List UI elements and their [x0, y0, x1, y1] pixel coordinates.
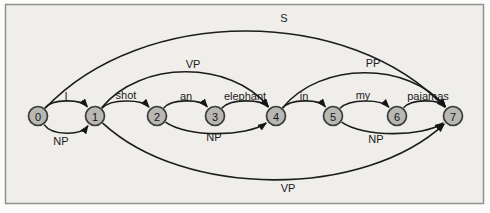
node-label-6: 6 [394, 111, 400, 123]
edge-label-pajamas: pajamas [407, 90, 449, 102]
figure-frame [6, 5, 484, 204]
edge-label-VP: VP [186, 58, 201, 70]
node-5: 5 [324, 107, 343, 126]
node-3: 3 [206, 107, 225, 126]
node-7: 7 [444, 107, 463, 126]
edge-label-NP: NP [368, 133, 383, 145]
edge-label-PP: PP [366, 57, 381, 69]
node-label-2: 2 [154, 111, 160, 123]
node-label-0: 0 [35, 111, 41, 123]
edge-label-S: S [280, 12, 287, 24]
node-label-5: 5 [330, 111, 336, 123]
edge-label-I: I [64, 90, 67, 102]
edge-label-VP: VP [281, 182, 296, 194]
node-label-3: 3 [212, 111, 218, 123]
edge-label-in: in [300, 90, 309, 102]
node-0: 0 [29, 107, 48, 126]
edge-label-shot: shot [116, 89, 137, 101]
node-2: 2 [148, 107, 167, 126]
node-label-1: 1 [92, 111, 98, 123]
node-1: 1 [86, 107, 105, 126]
edge-label-elephant: elephant [224, 90, 266, 102]
edge-label-my: my [356, 89, 371, 101]
edge-label-NP: NP [53, 135, 68, 147]
node-6: 6 [388, 107, 407, 126]
edge-label-an: an [180, 90, 192, 102]
edge-label-NP: NP [206, 131, 221, 143]
chart-parse-figure: SVPPPIshotanelephantinmypajamasNPNPNPVP0… [0, 0, 490, 213]
node-label-4: 4 [273, 111, 279, 123]
node-label-7: 7 [450, 111, 456, 123]
parse-chart-svg: SVPPPIshotanelephantinmypajamasNPNPNPVP0… [0, 0, 490, 213]
node-4: 4 [267, 107, 286, 126]
